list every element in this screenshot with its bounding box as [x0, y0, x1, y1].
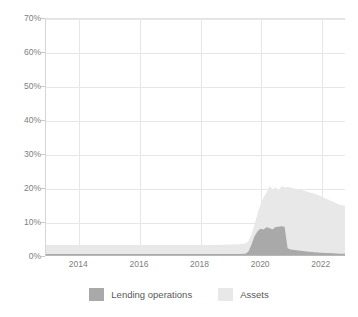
y-axis-tick-mark: [41, 256, 45, 257]
legend-item[interactable]: Assets: [218, 288, 269, 301]
y-axis-tick-label: 10%: [1, 218, 41, 227]
x-axis: 20142016201820202022: [45, 258, 345, 274]
legend-swatch-icon: [218, 288, 233, 301]
x-axis-tick-label: 2018: [190, 260, 209, 269]
x-axis-tick-label: 2022: [311, 260, 330, 269]
plot-area: [45, 18, 345, 256]
area-chart: 0%10%20%30%40%50%60%70% 2014201620182020…: [0, 0, 358, 317]
y-axis-tick-label: 60%: [1, 48, 41, 57]
chart-legend: Lending operationsAssets: [0, 288, 358, 301]
legend-label: Lending operations: [111, 290, 192, 300]
legend-label: Assets: [240, 290, 269, 300]
x-axis-tick-label: 2016: [129, 260, 148, 269]
y-axis-tick-label: 40%: [1, 116, 41, 125]
y-axis-tick-label: 50%: [1, 82, 41, 91]
y-axis-tick-label: 0%: [1, 252, 41, 261]
y-axis-tick-label: 20%: [1, 184, 41, 193]
legend-swatch-icon: [89, 288, 104, 301]
x-axis-tick-label: 2020: [251, 260, 270, 269]
y-axis-tick-label: 30%: [1, 150, 41, 159]
x-axis-tick-label: 2014: [69, 260, 88, 269]
y-axis: 0%10%20%30%40%50%60%70%: [0, 18, 41, 256]
area-series-assets: [46, 186, 345, 255]
y-axis-tick-label: 70%: [1, 14, 41, 23]
series-layer: [46, 19, 345, 255]
legend-item[interactable]: Lending operations: [89, 288, 192, 301]
